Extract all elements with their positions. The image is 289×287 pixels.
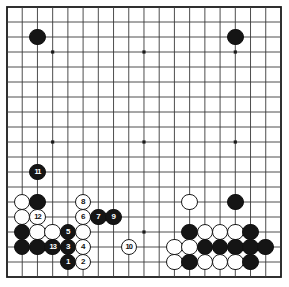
stone-white [166,239,183,256]
stone-black [242,254,259,271]
star-point [234,140,237,143]
stone-white [29,224,46,241]
move-number-label: 4 [81,243,85,251]
stone-white-move-10: 10 [121,239,138,256]
move-number-label: 12 [34,213,40,221]
move-number-label: 7 [96,213,100,221]
star-point [51,50,54,53]
star-point [142,230,145,233]
stone-black-move-11: 11 [29,164,46,181]
stone-white [227,224,244,241]
move-number-label: 5 [66,228,70,236]
stone-black [227,239,244,256]
stone-white [227,254,244,271]
stone-black [181,254,198,271]
star-point [234,50,237,53]
stone-black [227,194,244,211]
stone-black [181,224,198,241]
stone-black-move-9: 9 [105,209,122,226]
stone-white [181,239,198,256]
stone-black-move-7: 7 [90,209,107,226]
move-number-label: 6 [81,213,85,221]
stone-white [166,254,183,271]
go-board-diagram: 11812679513341012 [0,0,289,287]
stone-black [242,239,259,256]
stone-black [257,239,274,256]
move-number-label: 10 [126,243,132,251]
move-number-label: 13 [49,243,55,251]
star-point [51,140,54,143]
move-number-label: 2 [81,258,85,266]
move-number-label: 3 [66,243,70,251]
stone-black [29,239,46,256]
stone-black [29,29,46,46]
stone-black [227,29,244,46]
stone-black [242,224,259,241]
stone-black-move-13: 13 [44,239,61,256]
stone-white-move-12: 12 [29,209,46,226]
stone-white [181,194,198,211]
move-number-label: 1 [66,258,70,266]
stone-white [44,224,61,241]
move-number-label: 8 [81,198,85,206]
stone-black [29,194,46,211]
move-number-label: 9 [112,213,116,221]
star-point [142,140,145,143]
star-point [142,50,145,53]
move-number-label: 11 [34,168,40,176]
